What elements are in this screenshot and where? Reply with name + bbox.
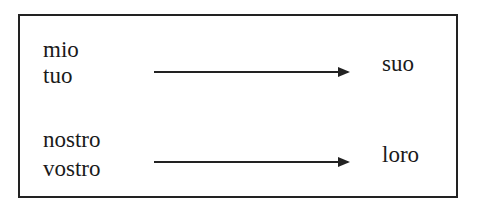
source-word: mio [43, 38, 79, 62]
source-word: vostro [43, 157, 101, 181]
arrow-icon [154, 161, 348, 163]
source-word: nostro [43, 128, 101, 152]
source-word: tuo [43, 64, 72, 88]
target-word: suo [382, 52, 414, 76]
arrow-icon [154, 71, 348, 73]
target-word: loro [382, 143, 419, 167]
